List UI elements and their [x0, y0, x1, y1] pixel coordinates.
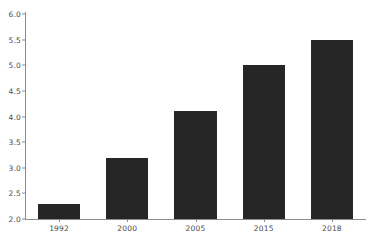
y-axis-tick-label: 5.5: [8, 35, 21, 44]
x-axis-tick-mark: [127, 219, 128, 222]
y-axis-tick-label: 5.0: [8, 61, 21, 70]
x-axis-tick-label: 2005: [186, 224, 206, 233]
x-axis-tick-label: 2000: [117, 224, 137, 233]
y-axis-tick-label: 4.0: [8, 112, 21, 121]
bar: [243, 65, 285, 219]
bar: [174, 111, 216, 219]
x-axis-tick-mark: [264, 219, 265, 222]
bar: [38, 204, 80, 219]
y-axis-tick-labels: 2.02.53.03.54.04.55.05.56.0: [0, 0, 21, 238]
y-axis-tick-label: 4.5: [8, 86, 21, 95]
bar-series: [25, 0, 366, 219]
y-axis-tick-label: 3.5: [8, 138, 21, 147]
x-axis-tick-label: 2018: [322, 224, 342, 233]
x-axis-tick-label: 1992: [49, 224, 69, 233]
y-axis-tick-label: 2.5: [8, 189, 21, 198]
bar: [311, 40, 353, 219]
x-axis-tick-mark: [196, 219, 197, 222]
x-axis-tick-label: 2015: [254, 224, 274, 233]
x-axis-tick-mark: [59, 219, 60, 222]
y-axis-tick-label: 2.0: [8, 215, 21, 224]
bar-chart: 2.02.53.03.54.04.55.05.56.0 199220002005…: [0, 0, 379, 238]
y-axis-tick-label: 3.0: [8, 163, 21, 172]
bar: [106, 158, 148, 220]
x-axis-tick-mark: [332, 219, 333, 222]
y-axis-tick-label: 6.0: [8, 10, 21, 19]
x-axis-tick-labels: 19922000200520152018: [25, 222, 366, 238]
